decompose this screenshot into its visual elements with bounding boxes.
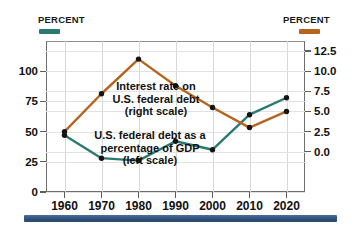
x-axis-tick: [101, 192, 102, 198]
right-axis-tick: [305, 151, 311, 152]
annotation-debt-gdp: U.S. federal debt as apercentage of GDP(…: [70, 129, 230, 167]
annotation-line: (right scale): [86, 105, 226, 118]
right-axis-tick: [305, 91, 311, 92]
right-axis-tick-label: 2.5: [314, 126, 330, 138]
bottom-rule-bar: [24, 215, 337, 222]
x-axis-tick: [175, 192, 176, 198]
right-series-color-swatch: [299, 29, 320, 34]
right-axis-tick-label: 5.0: [314, 105, 330, 117]
right-axis-tick: [305, 131, 311, 132]
x-axis-tick: [212, 192, 213, 198]
chart-figure: PERCENT PERCENT 196019701980199020002010…: [0, 0, 362, 228]
right-axis-tick-label: 0.0: [314, 146, 330, 158]
x-axis-tick: [64, 192, 65, 198]
annotation-line: U.S. federal debt as a: [70, 129, 230, 142]
annotation-line: (left scale): [70, 154, 230, 167]
left-axis-tick-label: 25: [10, 156, 38, 168]
right-axis-percent-text: PERCENT: [283, 14, 330, 25]
x-axis-tick: [138, 192, 139, 198]
x-axis-tick-label: 1990: [162, 199, 189, 213]
data-point-marker: [62, 129, 67, 134]
right-axis-tick: [305, 71, 311, 72]
x-axis-tick-label: 2010: [236, 199, 263, 213]
left-series-color-swatch: [39, 29, 60, 34]
right-axis-tick: [305, 111, 311, 112]
x-axis-tick: [286, 192, 287, 198]
left-axis-tick-label: 100: [10, 65, 38, 77]
x-axis-tick: [249, 192, 250, 198]
x-axis-tick-label: 1980: [125, 199, 152, 213]
left-axis-tick-label: 75: [10, 95, 38, 107]
data-point-marker: [284, 95, 289, 100]
data-point-marker: [136, 56, 141, 61]
x-axis-tick-label: 1970: [88, 199, 115, 213]
x-axis-tick-label: 2020: [273, 199, 300, 213]
right-axis-percent-label: PERCENT: [283, 14, 330, 25]
annotation-line: U.S. federal debt: [86, 93, 226, 106]
right-axis-tick-label: 10.0: [314, 65, 336, 77]
data-point-marker: [284, 109, 289, 114]
left-axis-tick-label: 50: [10, 126, 38, 138]
data-point-marker: [247, 112, 252, 117]
x-axis-tick-label: 2000: [199, 199, 226, 213]
right-axis-tick-label: 7.5: [314, 85, 330, 97]
right-axis-tick: [305, 50, 311, 51]
left-axis-percent-label: PERCENT: [38, 14, 85, 25]
data-point-marker: [247, 125, 252, 130]
left-axis-tick-label: 0: [10, 186, 38, 198]
x-axis-tick-label: 1960: [51, 199, 78, 213]
right-axis-tick-label: 12.5: [314, 45, 336, 57]
annotation-line: Interest rate on: [86, 80, 226, 93]
left-axis-percent-text: PERCENT: [38, 14, 85, 25]
annotation-interest-rate: Interest rate onU.S. federal debt(right …: [86, 80, 226, 118]
annotation-line: percentage of GDP: [70, 142, 230, 155]
